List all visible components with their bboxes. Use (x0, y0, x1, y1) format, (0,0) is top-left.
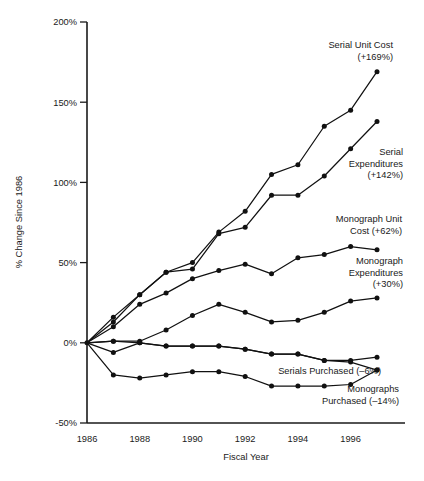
y-tick-label: -50% (55, 418, 77, 428)
data-point (269, 352, 274, 357)
y-tick-label: 50% (58, 258, 77, 268)
data-point (322, 173, 327, 178)
data-point (137, 292, 142, 297)
annotation-monograph-unit-cost: Monograph UnitCost (+62%) (336, 214, 403, 236)
data-point (111, 319, 116, 324)
data-point (216, 344, 221, 349)
y-tick-label: 150% (53, 98, 77, 108)
data-point (269, 384, 274, 389)
series-polyline (87, 343, 377, 386)
data-point (111, 324, 116, 329)
series-polyline (87, 341, 377, 360)
data-point (111, 315, 116, 320)
data-point (375, 355, 380, 360)
annotation-line: Monograph (356, 256, 403, 266)
data-point (111, 372, 116, 377)
x-tick-label: 1990 (182, 434, 203, 444)
annotation-line: (+169%) (358, 52, 393, 62)
data-point (243, 347, 248, 352)
data-point (295, 193, 300, 198)
series-serials-purchased (87, 339, 380, 363)
series-polyline (87, 247, 377, 343)
data-point (295, 255, 300, 260)
data-point (243, 262, 248, 267)
annotation-line: Serials Purchased (–6%) (278, 366, 381, 376)
data-point (111, 339, 116, 344)
annotation-line: Expenditures (349, 159, 404, 169)
x-tick-label: 1992 (235, 434, 256, 444)
data-point (190, 276, 195, 281)
annotation-line: Serial Unit Cost (328, 40, 393, 50)
data-point (348, 360, 353, 365)
data-point (190, 344, 195, 349)
annotation-line: Monographs (347, 384, 399, 394)
data-point (375, 119, 380, 124)
data-point (295, 352, 300, 357)
data-point (243, 310, 248, 315)
data-point (295, 384, 300, 389)
data-point (375, 69, 380, 74)
annotation-line: Monograph Unit (336, 214, 403, 224)
annotation-layer: Serial Unit Cost(+169%)SerialExpenditure… (278, 40, 403, 406)
annotation-line: Cost (+62%) (350, 226, 402, 236)
data-point (164, 344, 169, 349)
data-point (322, 358, 327, 363)
annotation-serial-expenditures: SerialExpenditures(+142%) (349, 147, 404, 180)
origin-data-point (85, 340, 90, 345)
data-point (322, 384, 327, 389)
data-point (190, 267, 195, 272)
data-point (348, 108, 353, 113)
data-point (295, 162, 300, 167)
data-point (216, 231, 221, 236)
data-point (322, 252, 327, 257)
x-tick-label: 1988 (129, 434, 150, 444)
data-point (190, 313, 195, 318)
data-point (164, 327, 169, 332)
data-point (190, 369, 195, 374)
annotation-monographs-purchased: MonographsPurchased (–14%) (322, 384, 399, 406)
y-tick-label: 100% (53, 178, 77, 188)
data-point (269, 193, 274, 198)
annotation-line: (+30%) (373, 279, 403, 289)
data-point (137, 376, 142, 381)
line-chart: 200%150%100%50%0%-50% 198619881990199219… (0, 0, 424, 481)
data-point (269, 319, 274, 324)
data-point (190, 260, 195, 265)
annotation-line: Purchased (–14%) (322, 396, 399, 406)
data-point (348, 146, 353, 151)
data-point (295, 318, 300, 323)
x-axis-tick-labels: 198619881990199219941996 (77, 434, 361, 444)
y-tick-label: 0% (64, 338, 77, 348)
annotation-serials-purchased: Serials Purchased (–6%) (278, 366, 381, 376)
data-point (164, 372, 169, 377)
data-point (348, 299, 353, 304)
data-point (111, 350, 116, 355)
data-point (137, 302, 142, 307)
series-monograph-unit-cost (87, 244, 380, 343)
data-point (137, 340, 142, 345)
data-point (269, 271, 274, 276)
annotation-serial-unit-cost: Serial Unit Cost(+169%) (328, 40, 393, 62)
y-tick-label: 200% (53, 17, 77, 27)
data-point (243, 209, 248, 214)
annotation-line: Expenditures (349, 268, 404, 278)
data-point (322, 124, 327, 129)
series-polyline (87, 72, 377, 343)
y-axis-tick-labels: 200%150%100%50%0%-50% (53, 17, 77, 428)
x-axis-title: Fiscal Year (223, 452, 268, 462)
data-point (216, 369, 221, 374)
x-tick-label: 1994 (288, 434, 309, 444)
y-axis-title: % Change Since 1986 (14, 176, 24, 269)
chart-container: 200%150%100%50%0%-50% 198619881990199219… (0, 0, 424, 481)
x-tick-label: 1986 (77, 434, 98, 444)
x-tick-label: 1996 (340, 434, 361, 444)
data-point (164, 291, 169, 296)
data-point (164, 270, 169, 275)
data-point (322, 310, 327, 315)
data-point (216, 302, 221, 307)
series-serial-unit-cost (87, 69, 380, 343)
data-point (375, 247, 380, 252)
data-point (216, 268, 221, 273)
series-polyline (87, 121, 377, 342)
y-axis-ticks (80, 22, 87, 423)
